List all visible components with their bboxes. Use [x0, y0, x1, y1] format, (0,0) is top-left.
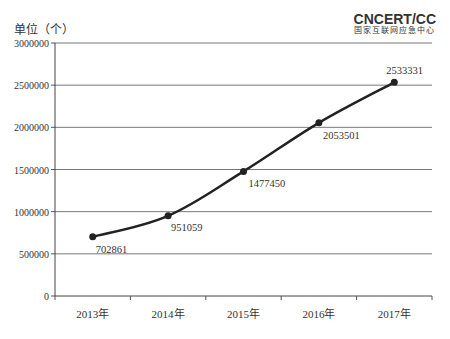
data-label: 702861 [96, 244, 128, 255]
x-tick-label: 2016年 [302, 307, 335, 320]
data-label: 951059 [171, 222, 203, 233]
data-point [165, 212, 172, 219]
data-label: 1477450 [249, 178, 286, 189]
x-tick-label: 2013年 [76, 307, 109, 320]
y-tick-label: 2500000 [14, 80, 49, 91]
data-point [89, 233, 96, 240]
y-tick-label: 1500000 [14, 165, 49, 176]
data-point [391, 79, 398, 86]
data-label: 2533331 [386, 65, 423, 76]
line-chart: 0500000100000015000002000000250000030000… [0, 0, 450, 339]
y-tick-label: 0 [44, 291, 49, 302]
data-label: 2053501 [323, 130, 360, 141]
data-point [240, 168, 247, 175]
data-line [93, 82, 395, 236]
y-tick-label: 1000000 [14, 207, 49, 218]
y-tick-label: 2000000 [14, 122, 49, 133]
x-tick-label: 2017年 [378, 307, 411, 320]
x-tick-label: 2014年 [152, 307, 185, 320]
x-tick-label: 2015年 [227, 307, 260, 320]
data-point [315, 119, 322, 126]
y-tick-label: 3000000 [14, 38, 49, 49]
y-tick-label: 500000 [19, 249, 49, 260]
